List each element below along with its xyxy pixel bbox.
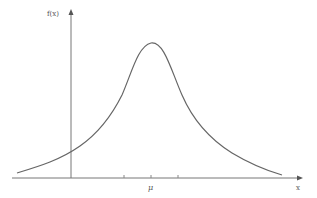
mu-label: μ xyxy=(148,183,153,192)
x-axis-label: x xyxy=(296,184,300,192)
y-axis-arrow-icon xyxy=(69,9,74,15)
y-axis-label: f(x) xyxy=(47,10,59,18)
chart: f(x) x μ xyxy=(0,0,317,198)
x-axis-arrow-icon xyxy=(297,176,303,181)
density-curve xyxy=(17,43,282,175)
